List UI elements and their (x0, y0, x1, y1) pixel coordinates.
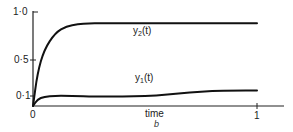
x-tick-label-0: 0 (30, 110, 36, 120)
x-tick-label-1: 1 (254, 111, 260, 121)
y-tick-label-mid: 0·5 (14, 55, 28, 65)
y-tick-label-top: 1·0 (13, 7, 27, 17)
series-label-y1: y1(t) (135, 73, 153, 86)
series-line-y1 (33, 90, 257, 106)
series-label-y2: y2(t) (133, 26, 151, 39)
y-tick-label-low: 0·1 (16, 91, 30, 101)
x-axis-label: time (145, 109, 164, 119)
figure-caption: b (154, 119, 159, 129)
